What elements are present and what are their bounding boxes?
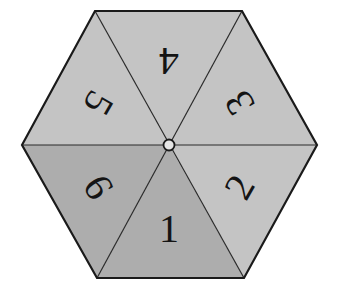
hexagon-spinner: 1 2 3 4 5 6 bbox=[0, 0, 341, 287]
center-hub-icon bbox=[164, 140, 175, 151]
sector-label-1: 1 bbox=[159, 206, 179, 251]
sector-label-4: 4 bbox=[159, 39, 179, 84]
